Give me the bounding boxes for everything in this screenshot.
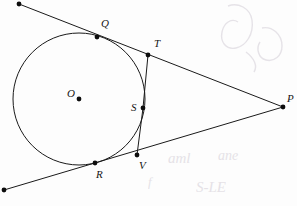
watermark-layer: aml ane S-LE f bbox=[148, 5, 282, 195]
point-label-O: O bbox=[67, 87, 75, 99]
watermark-ghost-text-4: f bbox=[148, 174, 154, 189]
point-label-R: R bbox=[95, 168, 103, 180]
point-label-S: S bbox=[131, 101, 137, 113]
watermark-blob-right bbox=[258, 28, 282, 61]
endpoint-dot-lower-ray bbox=[2, 188, 7, 193]
point-dot-Q bbox=[95, 35, 100, 40]
endpoint-dot-upper-ray bbox=[17, 2, 22, 7]
point-label-Q: Q bbox=[101, 17, 109, 29]
endpoint-dots-layer bbox=[2, 2, 22, 193]
geometry-canvas: aml ane S-LE f bbox=[0, 0, 297, 206]
point-dot-V bbox=[135, 153, 140, 158]
point-dot-P bbox=[281, 105, 286, 110]
watermark-blob-topright bbox=[222, 5, 253, 49]
geometry-diagram-figure: aml ane S-LE f bbox=[0, 0, 297, 206]
point-label-V: V bbox=[139, 159, 147, 171]
point-dot-R bbox=[93, 161, 98, 166]
point-label-P: P bbox=[286, 92, 294, 104]
segment-T-S bbox=[143, 55, 148, 108]
point-dot-S bbox=[141, 106, 146, 111]
watermark-ghost-text-2: ane bbox=[218, 148, 238, 163]
line-upper-tangent bbox=[19, 4, 283, 107]
watermark-ghost-text-3: S-LE bbox=[196, 179, 226, 195]
points-layer bbox=[77, 35, 286, 166]
watermark-ghost-text-1: aml bbox=[168, 150, 191, 166]
segment-S-V bbox=[137, 108, 143, 155]
line-lower-tangent bbox=[4, 107, 283, 190]
point-dot-T bbox=[146, 53, 151, 58]
point-dot-O bbox=[77, 97, 82, 102]
watermark-curl-right bbox=[246, 52, 256, 72]
point-label-T: T bbox=[154, 37, 161, 49]
